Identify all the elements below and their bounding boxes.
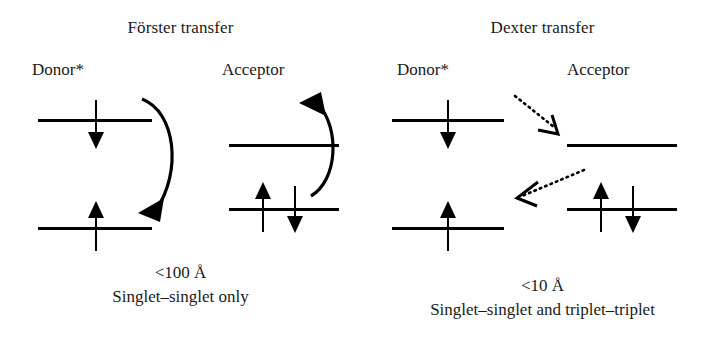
panel-dexter-transfer: Dexter transfer Donor* Acceptor — [362, 0, 723, 339]
dexter-caption-rule: Singlet–singlet and triplet–triplet — [362, 299, 723, 320]
forster-caption-distance: <100 Å — [0, 262, 361, 283]
dexter-caption-distance: <10 Å — [362, 275, 723, 296]
panel-forster-transfer: Förster transfer Donor* Acceptor — [0, 0, 361, 339]
forster-caption-rule: Singlet–singlet only — [0, 286, 361, 307]
